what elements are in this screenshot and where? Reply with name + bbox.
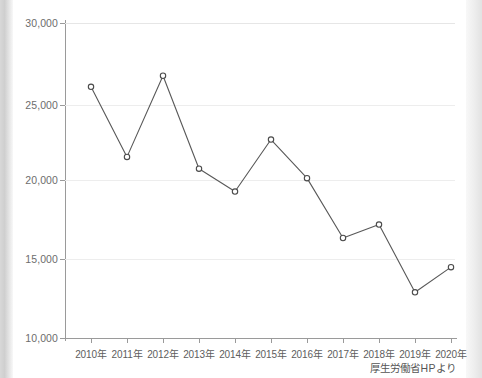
data-point-2010年 [88, 84, 93, 89]
data-point-2011年 [124, 154, 129, 159]
source-note: 厚生労働省HPより [370, 360, 456, 375]
data-point-2013年 [196, 166, 201, 171]
data-point-2015年 [268, 137, 273, 142]
data-point-2018年 [376, 222, 381, 227]
data-point-2017年 [340, 235, 345, 240]
series-line [91, 76, 451, 293]
data-point-2020年 [448, 264, 453, 269]
page-edge-shadow-left [0, 0, 13, 378]
data-point-2019年 [412, 290, 417, 295]
chart-page: 30,000 25,000 20,000 15,000 10,000 [0, 0, 482, 378]
data-series-layer [13, 0, 466, 378]
page-edge-shadow-right [466, 0, 482, 378]
data-point-2014年 [232, 189, 237, 194]
line-chart-figure: 30,000 25,000 20,000 15,000 10,000 [13, 0, 466, 378]
data-point-2016年 [304, 175, 309, 180]
data-point-2012年 [160, 73, 165, 78]
